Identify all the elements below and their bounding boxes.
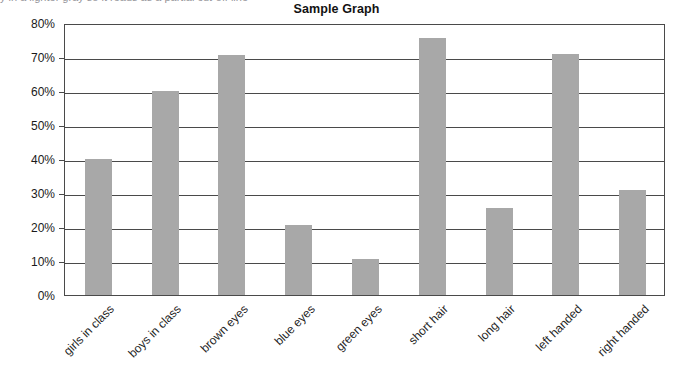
- bar: [419, 38, 446, 295]
- y-tick-label: 10%: [31, 255, 55, 269]
- y-tick-label: 80%: [31, 17, 55, 31]
- x-tick-label: brown eyes: [198, 302, 251, 355]
- x-tick-label: blue eyes: [271, 302, 317, 348]
- bar: [552, 54, 579, 295]
- y-tick-label: 40%: [31, 153, 55, 167]
- x-tick-label: left handed: [533, 302, 585, 354]
- y-tick-label: 50%: [31, 119, 55, 133]
- x-tick-label: long hair: [475, 302, 517, 344]
- x-tick-label: right handed: [594, 302, 651, 359]
- y-axis: 0%10%20%30%40%50%60%70%80%: [0, 0, 64, 320]
- bar: [486, 208, 513, 295]
- x-tick-label: short hair: [406, 302, 451, 347]
- x-tick-label: girls in class: [61, 302, 117, 358]
- bar: [285, 225, 312, 295]
- bar: [85, 159, 112, 295]
- bar: [619, 190, 646, 295]
- chart-title: Sample Graph: [0, 2, 673, 16]
- bars-series: [65, 25, 664, 295]
- bar: [218, 55, 245, 295]
- y-tick-label: 30%: [31, 187, 55, 201]
- x-tick-label: green eyes: [333, 302, 385, 354]
- bar: [352, 259, 379, 295]
- bar: [152, 91, 179, 295]
- x-tick-label: boys in class: [126, 302, 184, 360]
- bar-chart-figure: Sample Graph 0%10%20%30%40%50%60%70%80% …: [0, 0, 673, 373]
- y-tick-label: 20%: [31, 221, 55, 235]
- y-tick-label: 70%: [31, 51, 55, 65]
- x-axis: girls in classboys in classbrown eyesblu…: [0, 296, 673, 373]
- y-tick-label: 60%: [31, 85, 55, 99]
- plot-area: [64, 24, 665, 296]
